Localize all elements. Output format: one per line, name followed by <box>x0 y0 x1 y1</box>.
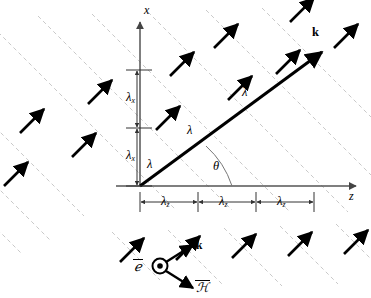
lambda-along-k-label-1: λ <box>147 158 152 171</box>
lambda-z-subscript-3: z <box>283 200 286 209</box>
lambda-x-label-2: λx <box>126 91 135 105</box>
out-of-page-dot <box>157 263 163 269</box>
diagram-canvas <box>0 0 371 298</box>
wavefront-arrow-group <box>4 0 368 262</box>
lambda-x-symbol-2: λ <box>126 90 131 104</box>
inset-h-arrow <box>166 271 193 288</box>
inset-magnetic-field-label: ℋ <box>196 280 209 294</box>
magnetic-field-symbol: ℋ <box>196 280 209 294</box>
inset-k-label: k <box>196 240 202 252</box>
theta-label: θ <box>213 160 219 173</box>
lambda-z-label-3: λz <box>277 195 286 209</box>
lambda-x-subscript-1: x <box>132 154 135 163</box>
inset-group <box>153 245 194 288</box>
electric-field-symbol: ℯ <box>134 259 142 273</box>
lambda-z-subscript-2: z <box>225 200 228 209</box>
lambda-along-k-label-3: λ <box>242 86 247 99</box>
k-vector-label: k <box>312 26 319 39</box>
inset-electric-field-label: ℯ <box>134 259 142 273</box>
lambda-z-label-1: λz <box>161 195 170 209</box>
inset-k-arrow <box>166 245 193 262</box>
lambda-z-subscript-1: z <box>167 200 170 209</box>
z-axis-label: z <box>349 190 354 202</box>
lambda-z-label-2: λz <box>219 195 228 209</box>
lambda-along-k-label-2: λ <box>187 124 192 137</box>
lambda-x-label-1: λx <box>126 149 135 163</box>
wave-propagation-figure: x z k θ λ λ λ λx λx λz λz λz k ℯ ℋ <box>0 0 371 298</box>
lambda-z-symbol-3: λ <box>277 194 282 208</box>
lambda-x-symbol-1: λ <box>126 148 131 162</box>
lambda-x-subscript-2: x <box>132 96 135 105</box>
wavefront-group <box>0 8 371 286</box>
lambda-z-symbol-1: λ <box>161 194 166 208</box>
x-axis-label: x <box>144 4 149 16</box>
lambda-z-symbol-2: λ <box>219 194 224 208</box>
